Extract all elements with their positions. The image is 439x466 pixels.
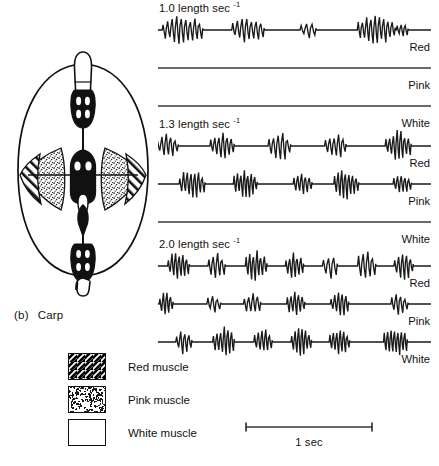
emg-trace-red: [158, 13, 431, 47]
emg-trace-pink: [158, 51, 431, 85]
legend-label-red: Red muscle: [128, 361, 189, 373]
ventral-pterygiophore-block: [71, 244, 95, 282]
panel-letter: (b): [14, 309, 29, 321]
species-name: Carp: [38, 309, 64, 321]
emg-trace-pink: [158, 287, 431, 321]
figure-caption: (b)Carp: [14, 309, 63, 321]
emg-trace-pink: [158, 167, 431, 201]
emg-panel-speed-1: 1.0 length sec -1RedPinkWhite: [150, 2, 439, 114]
emg-panel-speed-2: 1.3 length sec -1RedPinkWhite: [150, 118, 439, 234]
legend-label-pink: Pink muscle: [128, 394, 190, 406]
emg-trace-white: [158, 205, 431, 239]
emg-trace-white: [158, 325, 431, 359]
panel-speed-exponent: -1: [233, 116, 240, 125]
panel-speed-exponent: -1: [233, 236, 240, 245]
red-muscle-swatch: [68, 353, 106, 380]
carp-cross-section-diagram: [8, 42, 158, 297]
trace-label-white: White: [401, 353, 430, 365]
legend-label-white: White muscle: [128, 427, 197, 439]
emg-trace-red: [158, 129, 431, 163]
figure-carp-emg: (b)Carp Red muscle Pink muscle White mus…: [0, 0, 439, 466]
panel-speed-exponent: -1: [233, 0, 240, 9]
scale-bar-label: 1 sec: [244, 436, 374, 448]
emg-trace-red: [158, 249, 431, 283]
white-muscle-swatch: [68, 419, 106, 446]
dorsal-pterygiophore-block: [71, 90, 95, 128]
anal-fin: [76, 278, 90, 296]
time-scale-bar: 1 sec: [244, 421, 374, 448]
emg-panel-speed-3: 2.0 length sec -1RedPinkWhite: [150, 238, 439, 356]
legend-item-pink: Pink muscle: [68, 383, 298, 416]
pink-muscle-swatch: [68, 386, 106, 413]
